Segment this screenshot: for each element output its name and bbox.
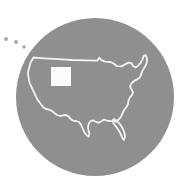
island-dot-1: [4, 37, 8, 41]
island-dot-3: [22, 45, 26, 49]
circle-badge: [16, 18, 174, 176]
highlighted-state: [51, 67, 71, 86]
map-icon-svg: [0, 0, 181, 187]
island-dot-2: [14, 40, 18, 44]
map-icon-container: United States map icon: [0, 0, 181, 187]
